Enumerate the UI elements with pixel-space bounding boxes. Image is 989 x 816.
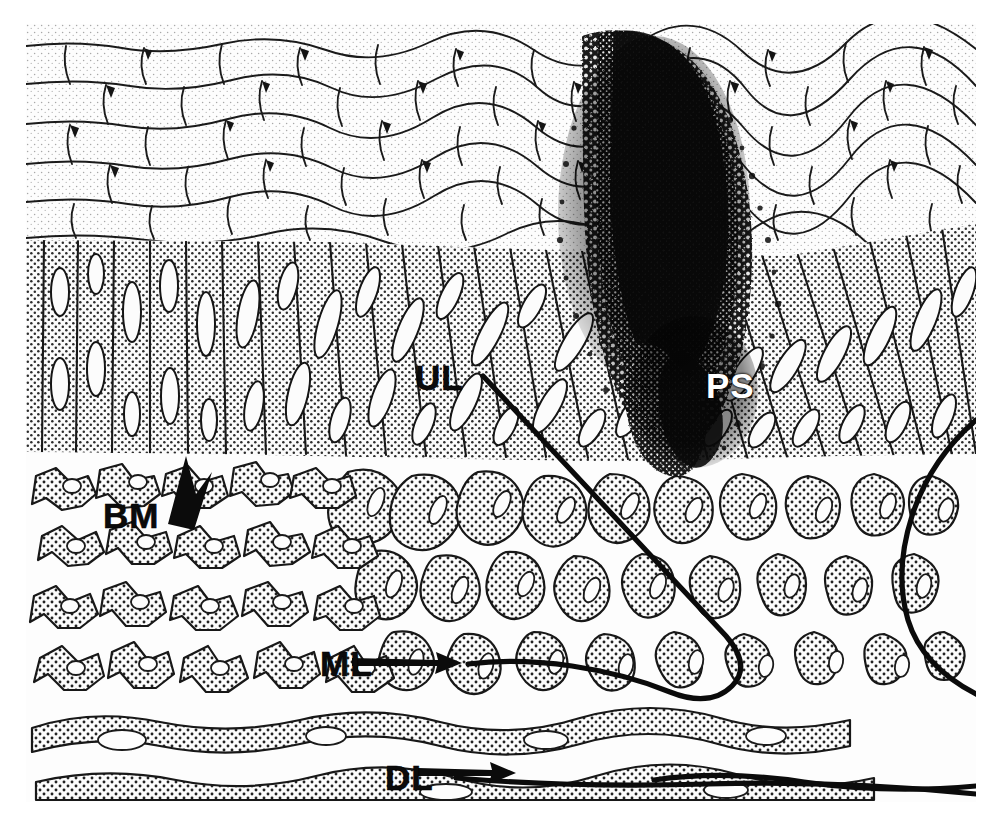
label-ml: ML: [320, 646, 373, 681]
label-bm: BM: [103, 498, 159, 533]
columnar-layer: [26, 224, 976, 474]
label-dl: DL: [385, 760, 434, 795]
histology-figure: UL PS BM ML DL: [0, 0, 989, 816]
figure-canvas: UL PS BM ML DL: [26, 24, 976, 802]
label-ps: PS: [706, 368, 755, 403]
squamous-layer: [26, 24, 976, 269]
drawing-layer: [26, 24, 976, 802]
connective-tissue-layer: [26, 452, 976, 802]
label-ul: UL: [415, 360, 464, 395]
